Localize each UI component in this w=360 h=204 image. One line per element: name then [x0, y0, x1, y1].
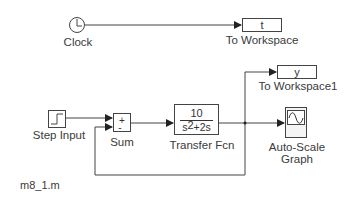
- clock-block[interactable]: [69, 17, 86, 34]
- signal-lines: [0, 0, 360, 204]
- sum-label: Sum: [106, 136, 138, 149]
- sum-block[interactable]: + -: [113, 113, 131, 132]
- model-filename-label: m8_1.m: [20, 179, 60, 192]
- step-input-label: Step Input: [26, 129, 92, 142]
- to-workspace-label: To Workspace: [218, 34, 306, 47]
- transfer-fcn-denominator: s2+2s: [175, 122, 218, 133]
- to-workspace1-block[interactable]: y: [277, 65, 317, 79]
- step-icon: [49, 111, 65, 127]
- to-workspace1-label: To Workspace1: [250, 80, 346, 93]
- sine-wave-icon: [287, 110, 305, 126]
- to-workspace-variable: t: [243, 20, 281, 31]
- sum-minus-sign: -: [114, 122, 126, 133]
- transfer-fcn-label: Transfer Fcn: [168, 139, 236, 152]
- clock-block-label: Clock: [58, 36, 98, 49]
- to-workspace1-variable: y: [278, 67, 316, 78]
- auto-scale-graph-block[interactable]: [285, 107, 307, 138]
- to-workspace-block[interactable]: t: [242, 18, 282, 32]
- auto-scale-graph-label-line2: Graph: [262, 153, 332, 166]
- transfer-fcn-numerator: 10: [175, 108, 218, 119]
- step-input-block[interactable]: [48, 110, 66, 128]
- transfer-fcn-block[interactable]: 10 s2+2s: [174, 104, 219, 135]
